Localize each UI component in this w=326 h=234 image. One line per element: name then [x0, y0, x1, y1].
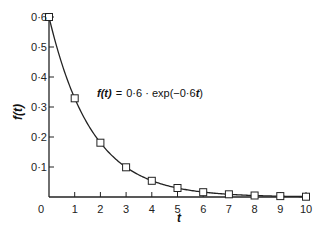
formula-close: ) — [199, 87, 203, 99]
data-point-marker — [277, 193, 284, 200]
x-tick-label: 6 — [200, 203, 206, 215]
x-tick-label: 7 — [226, 203, 232, 215]
formula-eq: = — [116, 87, 122, 99]
data-point-marker — [225, 191, 232, 198]
chart: 0123456789100·10·20·30·40·50·6 f(t) t f(… — [0, 0, 326, 234]
data-point-marker — [97, 139, 104, 146]
data-markers — [46, 14, 310, 201]
y-tick-label: 0·3 — [31, 101, 47, 113]
x-tick-label: 3 — [123, 203, 129, 215]
formula-annotation: f(t) = 0·6 · exp(−0·6t) — [97, 87, 203, 99]
x-tick-label: 1 — [72, 203, 78, 215]
x-tick-label: 0 — [38, 203, 44, 215]
axes — [49, 15, 308, 197]
data-point-marker — [303, 193, 310, 200]
x-tick-label: 8 — [252, 203, 258, 215]
x-tick-label: 2 — [97, 203, 103, 215]
x-tick-label: 4 — [149, 203, 155, 215]
x-axis-label: t — [177, 211, 182, 225]
y-tick-label: 0·1 — [31, 161, 47, 173]
x-tick-label: 10 — [300, 203, 312, 215]
data-point-marker — [200, 189, 207, 196]
data-point-marker — [123, 164, 130, 171]
data-curve — [49, 17, 306, 197]
x-tick-label: 9 — [277, 203, 283, 215]
data-point-marker — [71, 95, 78, 102]
data-point-marker — [251, 192, 258, 199]
y-axis-label: f(t) — [11, 104, 25, 120]
y-tick-label: 0·4 — [31, 71, 47, 83]
tick-labels: 0123456789100·10·20·30·40·50·6 — [31, 11, 312, 215]
data-point-marker — [174, 185, 181, 192]
formula-rhs: 0·6 · exp(−0·6 — [126, 87, 195, 99]
data-point-marker — [148, 177, 155, 184]
formula-lhs: f(t) — [97, 87, 112, 99]
y-tick-label: 0·5 — [31, 41, 47, 53]
y-tick-label: 0·2 — [31, 131, 47, 143]
y-tick-label: 0·6 — [31, 11, 47, 23]
